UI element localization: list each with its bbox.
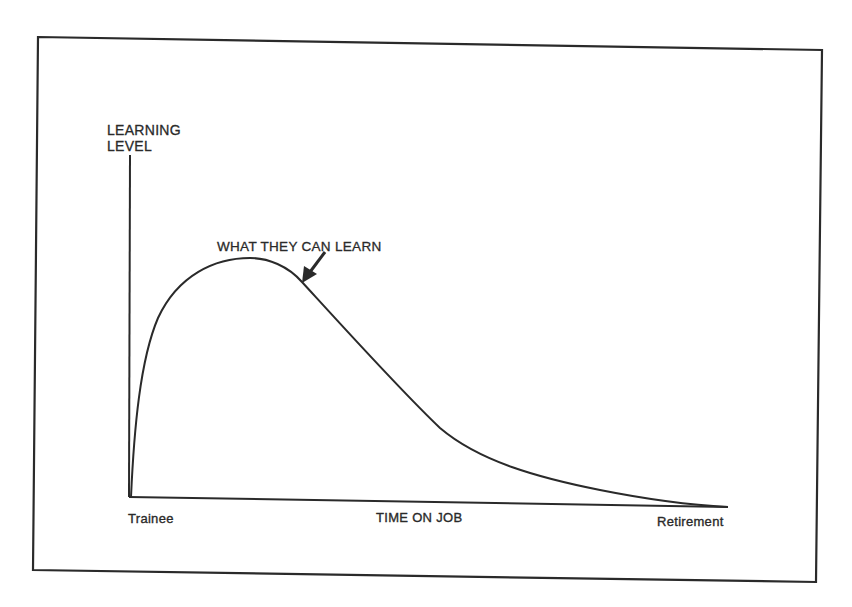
learning-curve bbox=[131, 258, 728, 507]
y-axis bbox=[129, 155, 130, 497]
y-axis-label: LEARNING LEVEL bbox=[107, 122, 181, 154]
figure-frame bbox=[33, 37, 822, 582]
x-axis bbox=[129, 497, 728, 507]
y-axis-label-line2: LEVEL bbox=[107, 138, 181, 154]
x-axis-label: TIME ON JOB bbox=[376, 510, 462, 525]
x-start-label: Trainee bbox=[128, 511, 174, 526]
curve-annotation-label: WHAT THEY CAN LEARN bbox=[217, 239, 381, 254]
y-axis-label-line1: LEARNING bbox=[107, 122, 181, 138]
x-end-label: Retirement bbox=[657, 514, 724, 529]
annotation-arrow-icon bbox=[302, 252, 325, 283]
